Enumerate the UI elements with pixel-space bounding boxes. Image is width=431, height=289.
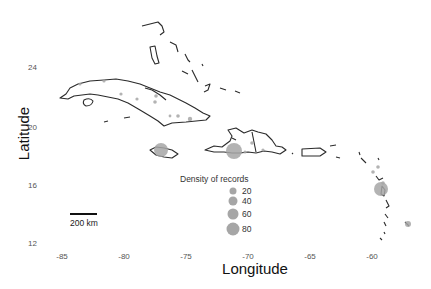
x-axis-title: Longitude	[210, 260, 300, 277]
point-jamaica	[154, 143, 168, 157]
legend-circle-20	[230, 188, 237, 195]
legend-title: Density of records	[180, 174, 249, 184]
x-tick-label: -60	[366, 252, 378, 261]
legend-circle-60	[228, 209, 239, 220]
cuba-outline	[60, 79, 210, 126]
y-tick-label: 24	[28, 63, 37, 72]
x-tick-label: -75	[180, 252, 192, 261]
point-barbados	[405, 221, 411, 227]
legend-label-20: 20	[242, 186, 251, 196]
y-axis-title: Latitude	[15, 99, 32, 169]
x-tick-label: -80	[118, 252, 130, 261]
isla-juventud-outline	[83, 99, 93, 106]
bahamas-outline	[142, 22, 164, 35]
puerto-rico-outline	[302, 148, 326, 156]
legend-circle-80	[227, 223, 240, 236]
map-canvas	[0, 0, 431, 289]
y-tick-label: 12	[28, 239, 37, 248]
legend-label-60: 60	[242, 209, 251, 219]
point-haiti	[226, 143, 242, 159]
coastlines	[60, 22, 409, 240]
legend-circle-40	[229, 197, 238, 206]
legend-label-80: 80	[242, 224, 251, 234]
x-tick-label: -65	[304, 252, 316, 261]
x-tick-label: -85	[56, 252, 68, 261]
legend-symbols	[227, 188, 240, 236]
point-lesser-antilles	[374, 182, 388, 196]
map-figure: -85 -80 -75 -70 -65 -60 24 20 16 12 Long…	[0, 0, 431, 289]
scale-bar-label: 200 km	[70, 218, 98, 228]
legend-label-40: 40	[242, 196, 251, 206]
hispaniola-outline	[205, 128, 286, 154]
y-tick-label: 16	[28, 181, 37, 190]
